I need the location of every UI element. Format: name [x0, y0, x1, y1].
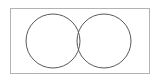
- venn-diagram-canvas: [0, 0, 162, 83]
- figure-root: [0, 0, 162, 83]
- diagram-background: [0, 0, 162, 83]
